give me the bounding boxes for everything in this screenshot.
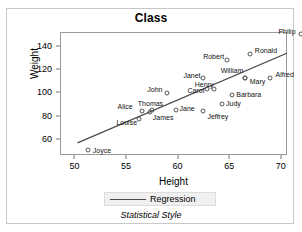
x-axis-tick-label: 70 [276, 161, 286, 171]
y-axis-tick-label: 120 [26, 64, 52, 74]
scatter-point-label: Judy [226, 100, 241, 107]
x-axis-tick-label: 60 [173, 161, 183, 171]
plot-area: JoyceLouiseAliceThomasJamesJohnJaneCarol… [60, 32, 287, 155]
y-axis-tick-label: 80 [26, 111, 52, 121]
scatter-point[interactable] [201, 108, 206, 113]
y-axis-tick-label: 140 [26, 41, 52, 51]
scatter-point[interactable] [230, 92, 235, 97]
x-axis-tick-label: 55 [121, 161, 131, 171]
x-axis-tick-label: 50 [69, 161, 79, 171]
scatter-point-label: Jane [180, 105, 195, 112]
scatter-point-label: Barbara [236, 91, 261, 98]
scatter-point-label: Louise [116, 119, 137, 126]
scatter-point-label: Carol [188, 87, 205, 94]
scatter-point-label: Ronald [255, 47, 277, 54]
scatter-point[interactable] [137, 117, 142, 122]
scatter-point[interactable] [299, 32, 302, 37]
chart-title: Class [0, 11, 302, 25]
x-axis-tick-mark [126, 155, 127, 159]
scatter-point-label: Mary [250, 78, 266, 85]
scatter-point[interactable] [139, 108, 144, 113]
scatter-point[interactable] [147, 110, 152, 115]
scatter-point-label: Henry [195, 81, 214, 88]
scatter-point-label: Philip [278, 28, 295, 35]
scatter-point-label: Alice [118, 103, 133, 110]
scatter-point[interactable] [165, 90, 170, 95]
scatter-point[interactable] [242, 76, 247, 81]
legend-line-swatch [110, 199, 146, 200]
legend-label-regression: Regression [150, 194, 196, 204]
scatter-point-label: Thomas [138, 100, 163, 107]
scatter-point-label: Jeffrey [207, 113, 228, 120]
chart-footnote: Statistical Style [0, 210, 302, 220]
scatter-point[interactable] [247, 52, 252, 57]
scatter-point[interactable] [268, 75, 273, 80]
scatter-point-label: Robert [203, 53, 224, 60]
scatter-point[interactable] [201, 75, 206, 80]
scatter-point-label: Alfred [275, 71, 293, 78]
y-axis-tick-label: 60 [26, 134, 52, 144]
scatter-point-label: John [147, 86, 162, 93]
y-axis-tick-label: 100 [26, 87, 52, 97]
scatter-point-label: James [153, 114, 174, 121]
scatter-point[interactable] [219, 101, 224, 106]
scatter-point[interactable] [173, 108, 178, 113]
x-axis-label: Height [60, 176, 287, 187]
x-axis-tick-mark [177, 155, 178, 159]
scatter-point-label: Joyce [93, 147, 111, 154]
scatter-point[interactable] [85, 147, 90, 152]
x-axis-tick-label: 65 [224, 161, 234, 171]
scatter-point[interactable] [225, 57, 230, 62]
x-axis-tick-mark [229, 155, 230, 159]
truncated-top-strip [0, 0, 302, 8]
x-axis-tick-mark [280, 155, 281, 159]
chart-figure: Class Weight Height 60801001201405055606… [0, 0, 302, 232]
scatter-point-label: Janet [183, 72, 200, 79]
x-axis-tick-mark [74, 155, 75, 159]
legend[interactable]: Regression [104, 192, 216, 206]
scatter-point-label: William [221, 67, 244, 74]
